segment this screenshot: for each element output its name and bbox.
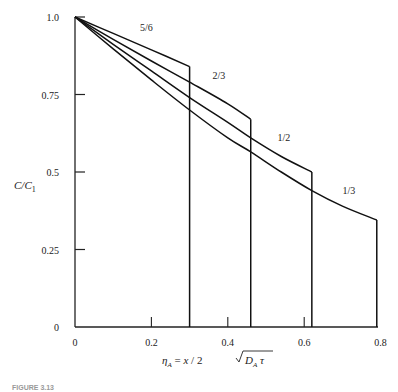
y-tick-label: 0.75 bbox=[42, 90, 60, 101]
series-label-5-6: 5/6 bbox=[140, 22, 153, 33]
axes bbox=[75, 17, 378, 327]
x-axis-label: ηA = x / 2 DA τ bbox=[162, 351, 273, 369]
series-label-1-2: 1/2 bbox=[277, 132, 290, 143]
x-tick-label: 0.4 bbox=[222, 337, 235, 348]
series-group bbox=[75, 17, 377, 327]
y-tick-label: 0 bbox=[54, 322, 59, 333]
x-ticks: 00.20.40.60.8 bbox=[73, 317, 387, 348]
figure-caption: FIGURE 3.13 bbox=[12, 384, 54, 391]
x-tick-label: 0 bbox=[73, 337, 78, 348]
series-label-2-3: 2/3 bbox=[213, 70, 226, 81]
y-axis-label: C/C1 bbox=[14, 179, 36, 194]
svg-text:ηA = x / 2: ηA = x / 2 bbox=[162, 354, 202, 369]
y-tick-label: 0.5 bbox=[47, 167, 60, 178]
svg-text:DA τ: DA τ bbox=[244, 354, 265, 369]
series-line-2-3 bbox=[75, 17, 251, 119]
y-tick-label: 0.25 bbox=[42, 245, 60, 256]
x-tick-label: 0.2 bbox=[145, 337, 158, 348]
series-line-1-3 bbox=[75, 17, 377, 220]
y-ticks: 00.250.50.751.0 bbox=[42, 12, 86, 333]
series-line-5-6 bbox=[75, 17, 190, 67]
y-tick-label: 1.0 bbox=[47, 12, 60, 23]
curve-labels: 5/62/31/21/3 bbox=[140, 22, 355, 196]
series-label-1-3: 1/3 bbox=[342, 185, 355, 196]
series-line-1-2 bbox=[75, 17, 312, 172]
x-tick-label: 0.8 bbox=[374, 337, 387, 348]
x-tick-label: 0.6 bbox=[298, 337, 311, 348]
chart: 00.250.50.751.0 00.20.40.60.8 5/62/31/21… bbox=[0, 0, 398, 392]
